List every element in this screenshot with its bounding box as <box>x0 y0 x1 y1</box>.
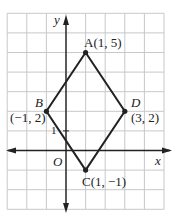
vertex-b-coords: (−1, 2) <box>10 110 46 125</box>
vertex-d-name: D <box>130 95 141 110</box>
y-axis-label: y <box>52 12 60 27</box>
vertex-b-name: B <box>35 95 43 110</box>
x-axis-label: x <box>154 153 161 168</box>
vertex-point-a <box>83 50 88 55</box>
vertex-point-c <box>83 168 88 173</box>
x-axis-right-arrow-icon <box>162 148 172 154</box>
vertex-d-coords: (3, 2) <box>131 110 159 125</box>
vertex-c-label: C(1, −1) <box>82 174 126 189</box>
unit-tick-label: 1 <box>51 124 57 136</box>
coordinate-diagram: y x O 1 A(1, 5) D (3, 2) C(1, −1) B (−1,… <box>0 0 180 219</box>
y-axis-down-arrow-icon <box>63 203 69 213</box>
y-axis-up-arrow-icon <box>63 15 69 25</box>
vertex-a-label: A(1, 5) <box>84 35 122 50</box>
origin-label: O <box>53 154 63 169</box>
vertex-point-d <box>122 109 127 114</box>
